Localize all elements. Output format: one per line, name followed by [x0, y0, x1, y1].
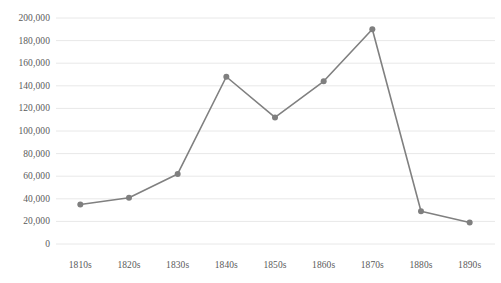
x-axis-tick-label: 1850s: [251, 260, 300, 270]
x-axis-tick-label: 1880s: [397, 260, 446, 270]
y-axis-tick-label: 200,000: [18, 13, 50, 23]
y-axis-tick-label: 120,000: [18, 103, 50, 113]
gridline-group: [56, 18, 495, 244]
data-point-marker[interactable]: [175, 171, 181, 177]
x-axis-tick-label: 1820s: [105, 260, 154, 270]
data-point-marker[interactable]: [467, 220, 473, 226]
data-point-marker[interactable]: [321, 78, 327, 84]
y-axis-tick-label: 180,000: [18, 36, 50, 46]
data-point-marker[interactable]: [223, 74, 229, 80]
x-axis-tick-label: 1870s: [348, 260, 397, 270]
data-point-marker[interactable]: [272, 114, 278, 120]
y-axis-tick-label: 80,000: [23, 149, 50, 159]
data-point-marker[interactable]: [369, 26, 375, 32]
x-axis-tick-label: 1840s: [202, 260, 251, 270]
y-axis-tick-label: 100,000: [18, 126, 50, 136]
chart-plot-area: [0, 0, 501, 283]
x-axis-tick-label: 1890s: [445, 260, 494, 270]
y-axis-tick-label: 140,000: [18, 81, 50, 91]
y-axis-tick-label: 0: [45, 239, 50, 249]
y-axis-tick-label: 40,000: [23, 194, 50, 204]
y-axis-tick-label: 20,000: [23, 216, 50, 226]
data-point-marker-group: [77, 26, 472, 225]
y-axis-tick-label: 160,000: [18, 58, 50, 68]
data-point-marker[interactable]: [77, 201, 83, 207]
line-chart: 020,00040,00060,00080,000100,000120,0001…: [0, 0, 501, 283]
data-point-marker[interactable]: [126, 195, 132, 201]
y-axis-tick-label: 60,000: [23, 171, 50, 181]
data-point-marker[interactable]: [418, 208, 424, 214]
x-axis-tick-label: 1810s: [56, 260, 105, 270]
x-axis-tick-label: 1830s: [153, 260, 202, 270]
data-series-line: [80, 29, 469, 222]
x-axis-tick-label: 1860s: [299, 260, 348, 270]
